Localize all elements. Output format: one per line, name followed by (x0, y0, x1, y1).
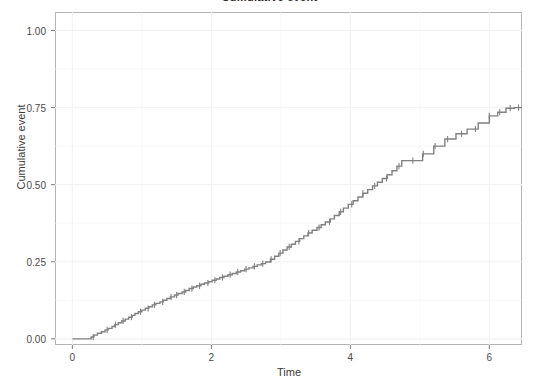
x-tick-label: 4 (335, 352, 365, 363)
x-tick-label: 6 (474, 352, 504, 363)
plot-panel (55, 12, 522, 345)
x-tick-label: 2 (196, 352, 226, 363)
y-tick-label: 0.25 (12, 256, 46, 267)
x-tick-label: 0 (57, 352, 87, 363)
chart-figure: Cumulative event 0.000.250.500.751.00 02… (0, 0, 539, 384)
plot-title: Cumulative event (0, 0, 539, 4)
y-axis-title: Cumulative event (15, 87, 27, 207)
y-tick-label: 0.00 (12, 333, 46, 344)
x-axis-title: Time (55, 366, 523, 378)
y-tick-label: 1.00 (12, 25, 46, 36)
